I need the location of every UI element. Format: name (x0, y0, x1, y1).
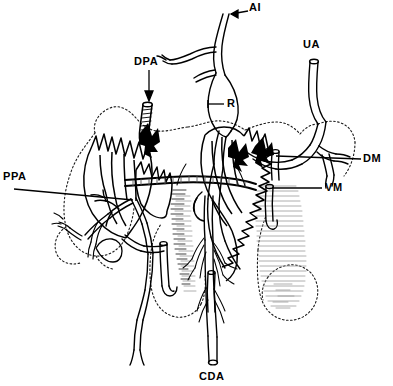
label-ppa: PPA (3, 171, 27, 182)
label-dpa: DPA (134, 56, 158, 67)
label-dm: DM (363, 153, 381, 164)
vascular-illustration (0, 0, 393, 386)
label-r: R (227, 98, 236, 109)
anatomical-figure: AI UA DPA R PPA DM VM CDA (0, 0, 393, 386)
label-ai: AI (249, 2, 261, 13)
label-vm: VM (325, 182, 343, 193)
label-cda: CDA (199, 371, 225, 382)
label-ua: UA (303, 39, 320, 50)
